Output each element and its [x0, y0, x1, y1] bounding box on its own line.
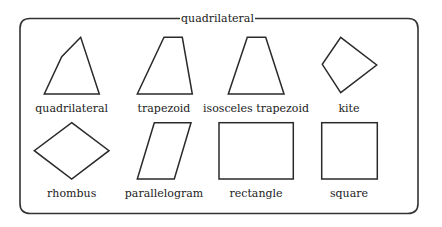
shape-label-isosceles-trapezoid: isosceles trapezoid	[203, 102, 309, 115]
shape-label-quadrilateral: quadrilateral	[35, 102, 108, 115]
kite-shape	[322, 37, 376, 92]
rhombus-shape	[34, 123, 109, 179]
shape-label-trapezoid: trapezoid	[138, 102, 191, 115]
trapezoid-shape	[137, 37, 192, 94]
isosceles-trapezoid-shape	[228, 37, 284, 94]
square-shape	[322, 123, 378, 179]
frame-border	[20, 19, 418, 214]
shape-label-parallelogram: parallelogram	[125, 187, 204, 200]
diagram-title: quadrilateral	[181, 12, 254, 25]
shape-label-rhombus: rhombus	[47, 187, 97, 200]
shape-label-square: square	[330, 187, 368, 200]
quadrilateral-diagram: quadrilateral quadrilateral trapezoid is…	[0, 0, 442, 227]
shape-label-kite: kite	[338, 102, 359, 115]
shape-label-rectangle: rectangle	[229, 187, 282, 200]
rectangle-shape	[219, 123, 293, 179]
quadrilateral-shape	[44, 37, 99, 94]
parallelogram-shape	[137, 123, 191, 179]
